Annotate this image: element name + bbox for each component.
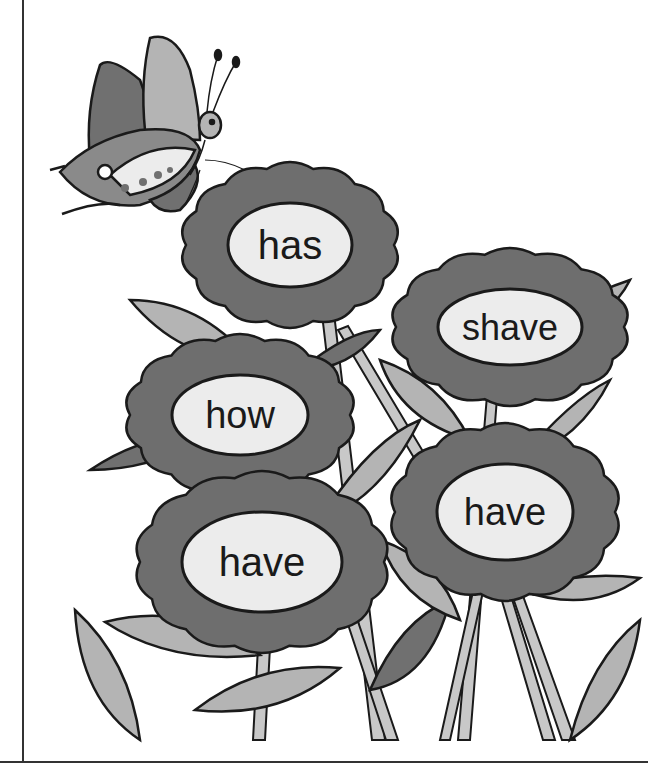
flower-word: have <box>219 540 306 584</box>
flower-have: have <box>137 471 388 653</box>
flowers: hasshavehowhavehave <box>126 162 627 653</box>
flower-illustration: hasshavehowhavehave <box>0 0 672 784</box>
flower-has: has <box>182 162 398 328</box>
flower-shave: shave <box>392 248 627 406</box>
flower-word: how <box>205 394 275 436</box>
flower-word: shave <box>462 307 558 348</box>
flower-how: how <box>126 334 353 496</box>
flower-have: have <box>391 423 618 601</box>
flower-word: have <box>464 491 546 533</box>
flower-word: has <box>258 223 323 267</box>
